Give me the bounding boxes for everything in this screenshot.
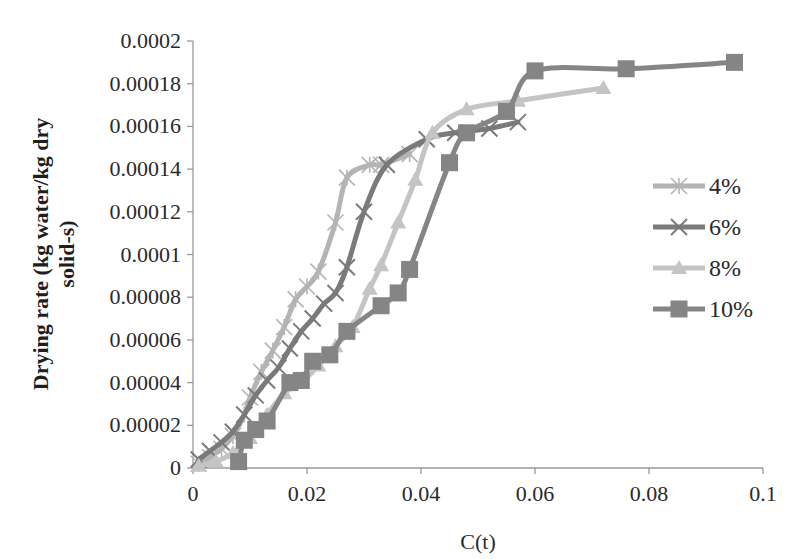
x-tick-label: 0 bbox=[188, 481, 199, 506]
triangle-marker-icon bbox=[373, 257, 389, 271]
square-marker-icon bbox=[230, 453, 247, 470]
square-marker-icon bbox=[671, 301, 688, 318]
y-tick-label: 0.00002 bbox=[110, 412, 182, 437]
square-marker-icon bbox=[390, 284, 407, 301]
series-8pct bbox=[191, 80, 612, 472]
chart-canvas: 00.000020.000040.000060.000080.00010.000… bbox=[0, 0, 794, 559]
x-tick-label: 0.04 bbox=[402, 481, 441, 506]
square-marker-icon bbox=[304, 353, 321, 370]
x-marker-icon bbox=[271, 360, 287, 376]
x-marker-icon bbox=[282, 340, 298, 356]
square-marker-icon bbox=[338, 323, 355, 340]
asterisk-marker-icon bbox=[339, 170, 355, 186]
square-marker-icon bbox=[527, 62, 544, 79]
x-axis-title: C(t) bbox=[460, 529, 495, 554]
legend: 4%6%8%10% bbox=[653, 173, 753, 322]
y-tick-label: 0.00006 bbox=[110, 327, 182, 352]
square-marker-icon bbox=[618, 60, 635, 77]
drying-rate-chart: 00.000020.000040.000060.000080.00010.000… bbox=[0, 0, 794, 559]
square-marker-icon bbox=[259, 413, 276, 430]
x-tick-label: 0.08 bbox=[630, 481, 669, 506]
series-line bbox=[199, 122, 518, 459]
y-tick-label: 0.00008 bbox=[110, 284, 182, 309]
series-line bbox=[239, 62, 735, 461]
square-marker-icon bbox=[726, 54, 743, 71]
series-line bbox=[199, 88, 604, 466]
series-10pct bbox=[230, 54, 743, 470]
square-marker-icon bbox=[458, 124, 475, 141]
y-axis-title-line-1: Drying rate (kg water/kg dry bbox=[28, 118, 53, 391]
legend-item-4pct: 4% bbox=[653, 173, 741, 199]
square-marker-icon bbox=[441, 154, 458, 171]
x-tick-label: 0.06 bbox=[516, 481, 555, 506]
y-tick-label: 0.00014 bbox=[110, 156, 182, 181]
legend-label: 8% bbox=[709, 255, 741, 281]
asterisk-marker-icon bbox=[310, 264, 326, 280]
square-marker-icon bbox=[401, 261, 418, 278]
y-tick-label: 0.00012 bbox=[110, 199, 182, 224]
asterisk-marker-icon bbox=[276, 319, 292, 335]
asterisk-marker-icon bbox=[299, 279, 315, 295]
square-marker-icon bbox=[498, 103, 515, 120]
plot-series bbox=[191, 54, 743, 472]
y-tick-label: 0.00016 bbox=[110, 113, 182, 138]
legend-item-8pct: 8% bbox=[653, 255, 741, 281]
y-tick-label: 0 bbox=[170, 455, 181, 480]
x-marker-icon bbox=[328, 285, 344, 301]
y-tick-label: 0.00004 bbox=[110, 370, 182, 395]
asterisk-marker-icon bbox=[328, 214, 344, 230]
y-axis-title-line-2: solid-s) bbox=[54, 220, 79, 287]
x-marker-icon bbox=[305, 311, 321, 327]
x-tick-label: 0.02 bbox=[288, 481, 327, 506]
legend-item-6pct: 6% bbox=[653, 214, 741, 240]
x-tick-label: 0.1 bbox=[749, 481, 777, 506]
y-axis-title: Drying rate (kg water/kg dry solid-s) bbox=[28, 118, 79, 391]
legend-item-10pct: 10% bbox=[653, 296, 753, 322]
y-tick-label: 0.00018 bbox=[110, 71, 182, 96]
triangle-marker-icon bbox=[390, 214, 406, 228]
square-marker-icon bbox=[321, 346, 338, 363]
legend-label: 6% bbox=[709, 214, 741, 240]
legend-label: 4% bbox=[709, 173, 741, 199]
y-tick-label: 0.0002 bbox=[121, 28, 182, 53]
square-marker-icon bbox=[373, 297, 390, 314]
legend-label: 10% bbox=[709, 296, 753, 322]
asterisk-marker-icon bbox=[288, 291, 304, 307]
triangle-marker-icon bbox=[407, 172, 423, 186]
square-marker-icon bbox=[293, 372, 310, 389]
y-tick-label: 0.0001 bbox=[121, 242, 182, 267]
asterisk-marker-icon bbox=[265, 343, 281, 359]
